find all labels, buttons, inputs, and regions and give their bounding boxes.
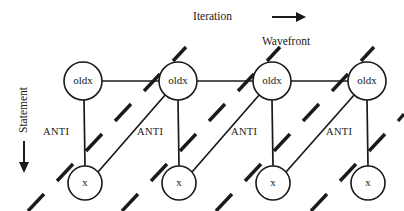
anti-label-3: ANTI	[326, 126, 352, 137]
statement-axis: Statement	[17, 86, 29, 173]
statement-arrow-head	[19, 162, 29, 173]
anti-dependence-edge-vertical	[84, 100, 85, 166]
node-oldx-label: oldx	[357, 74, 377, 86]
node-oldx-0: oldx	[64, 62, 102, 100]
iteration-axis: Iteration	[193, 10, 306, 22]
diagram-canvas: oldxoldxoldxoldxxxxx ANTIANTIANTIANTI It…	[0, 0, 404, 211]
wavefront-dependence-diagram: oldxoldxoldxoldxxxxx ANTIANTIANTIANTI It…	[0, 0, 404, 211]
wavefront-dash-segment	[216, 194, 232, 211]
iteration-arrow-head	[296, 12, 306, 22]
wavefront-dash-segment	[209, 104, 225, 121]
node-oldx-label: oldx	[168, 74, 188, 86]
wavefront-dash-segment	[115, 104, 131, 121]
wavefront-dash-segment	[398, 114, 404, 121]
statement-axis-label: Statement	[17, 86, 29, 133]
node-x-label: x	[82, 176, 88, 188]
wavefront-dash-segment	[267, 47, 280, 61]
iteration-axis-label: Iteration	[193, 10, 232, 22]
node-oldx-1: oldx	[159, 62, 197, 100]
node-x-0: x	[68, 166, 102, 200]
node-oldx-3: oldx	[348, 62, 386, 100]
wavefront-dash-segment	[303, 104, 319, 121]
anti-dependence-edge-vertical	[272, 100, 273, 166]
wavefront-dash-segment	[238, 74, 254, 91]
node-x-1: x	[162, 166, 196, 200]
wavefront-callout-label: Wavefront	[262, 35, 311, 47]
anti-label-2: ANTI	[231, 126, 257, 137]
wavefront-dash-segment	[144, 74, 160, 91]
node-x-3: x	[351, 166, 385, 200]
wavefront-dash-segment	[369, 134, 385, 151]
anti-dependence-edge-vertical	[367, 100, 368, 166]
node-x-label: x	[270, 176, 276, 188]
wavefront-dash-segment	[28, 194, 44, 211]
wavefront-dash-segment	[311, 194, 327, 211]
node-oldx-label: oldx	[262, 74, 282, 86]
node-x-label: x	[176, 176, 182, 188]
wavefront-dash-segment	[86, 134, 102, 151]
node-x-2: x	[256, 166, 290, 200]
node-oldx-2: oldx	[253, 62, 291, 100]
anti-dependence-labels: ANTIANTIANTIANTI	[43, 126, 352, 137]
anti-label-1: ANTI	[137, 126, 163, 137]
anti-label-0: ANTI	[43, 126, 69, 137]
anti-dependence-edge-vertical	[178, 100, 179, 166]
node-x-label: x	[365, 176, 371, 188]
wavefront-dash-segment	[122, 194, 138, 211]
wavefront-dash-segment	[274, 134, 290, 151]
wavefront-dash-segment	[173, 47, 186, 61]
wavefront-dash-segment	[361, 47, 374, 61]
node-oldx-label: oldx	[73, 74, 93, 86]
wavefront-dash-segment	[332, 74, 348, 91]
wavefront-dash-segment	[180, 134, 196, 151]
